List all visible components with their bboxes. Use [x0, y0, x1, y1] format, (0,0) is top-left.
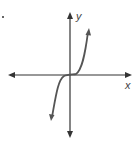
x-axis-label: x — [125, 79, 131, 91]
graph — [0, 0, 137, 141]
bullet-marker — [2, 16, 4, 18]
y-axis-label: y — [76, 10, 82, 22]
